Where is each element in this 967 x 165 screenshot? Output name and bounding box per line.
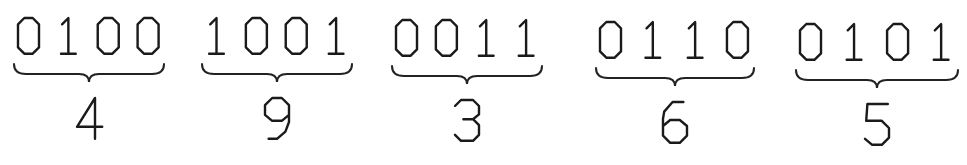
decimal-value xyxy=(865,104,889,145)
bit-digit xyxy=(138,18,159,54)
bit-digit xyxy=(246,18,267,54)
bit-digit xyxy=(934,24,949,60)
bit-digit xyxy=(600,22,621,58)
decimal-value xyxy=(455,100,479,141)
curly-brace-icon xyxy=(202,64,352,82)
bit-digit xyxy=(800,24,821,60)
bit-digit xyxy=(479,20,494,56)
bit-digit xyxy=(209,18,224,54)
bit-digit xyxy=(98,18,119,54)
bit-digit xyxy=(847,24,862,60)
bit-digit xyxy=(18,18,39,54)
nibble-group-0110 xyxy=(596,22,754,143)
curly-brace-icon xyxy=(796,70,958,88)
curly-brace-icon xyxy=(14,64,164,82)
curly-brace-icon xyxy=(392,66,542,84)
decimal-value xyxy=(663,102,687,143)
curly-brace-icon xyxy=(596,68,754,86)
nibble-group-1001 xyxy=(202,18,352,139)
nibble-group-0011 xyxy=(392,20,542,141)
bit-digit xyxy=(436,20,457,56)
bit-digit xyxy=(727,22,748,58)
bit-digit xyxy=(887,24,908,60)
bit-digit xyxy=(286,18,307,54)
bit-digit xyxy=(61,18,76,54)
bit-digit xyxy=(396,20,417,56)
bit-digit xyxy=(688,22,703,58)
decimal-value xyxy=(265,98,289,139)
decimal-value xyxy=(77,98,102,139)
nibble-group-0100 xyxy=(14,18,164,139)
diagram-canvas xyxy=(0,0,967,165)
bit-digit xyxy=(519,20,534,56)
bit-digit xyxy=(645,22,660,58)
bit-digit xyxy=(329,18,344,54)
nibble-group-0101 xyxy=(796,24,958,145)
